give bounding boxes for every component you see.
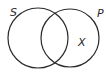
region-mark-x: X <box>77 36 86 49</box>
set-p-label: P <box>97 7 104 20</box>
set-s-label: S <box>10 6 17 19</box>
set-p-circle <box>41 9 99 67</box>
set-s-circle <box>8 8 68 68</box>
venn-diagram: S P X <box>0 0 106 78</box>
